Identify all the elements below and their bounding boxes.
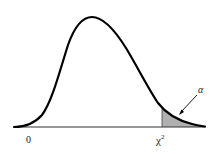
chi-square-chart: 0 χ2 α — [0, 0, 216, 154]
alpha-label: α — [198, 84, 204, 95]
density-curve — [14, 17, 205, 127]
critical-value-label: χ2 — [155, 133, 165, 146]
alpha-arrow — [181, 95, 197, 112]
alpha-tail-region — [162, 108, 205, 127]
superscript-2: 2 — [161, 133, 165, 141]
arrow-head-icon — [179, 110, 184, 116]
origin-label: 0 — [26, 134, 31, 145]
